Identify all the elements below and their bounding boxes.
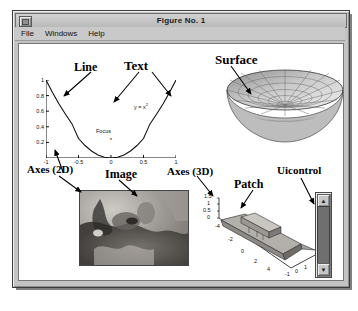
window-title: Figure No. 1 [16, 16, 346, 25]
menu-bar[interactable]: File Windows Help [15, 27, 345, 41]
focus-point-label: Focus [96, 128, 111, 134]
parabola-ytick-1: 1 [41, 77, 44, 83]
menu-item-help-label: Help [88, 29, 104, 38]
curve-equation-base: y = x [134, 104, 146, 110]
patch-ztick-0: 0 [207, 214, 210, 220]
parabola-ytick-06: 0.6 [36, 108, 44, 114]
callout-uicontrol: Uicontrol [277, 164, 321, 176]
parabola-plot-svg: * [46, 80, 176, 158]
desktop-background: Figure No. 1 File Windows Help [0, 0, 358, 311]
figure-canvas[interactable]: * 1 0.8 0.6 0.4 0.2 -1 -0.5 0 0.5 1 Focu… [18, 43, 344, 281]
figure-window[interactable]: Figure No. 1 File Windows Help [12, 10, 350, 288]
parabola-xtick-0: 0 [109, 159, 112, 165]
parabola-ytick-02: 0.2 [36, 139, 44, 145]
callout-image: Image [105, 167, 137, 182]
parabola-xtick-05: 0.5 [140, 159, 148, 165]
callout-line: Line [74, 60, 97, 75]
patch-xtick-neg4: -4 [215, 223, 220, 229]
patch-xtick-neg2: -2 [228, 236, 233, 242]
patch-xtick-0: 0 [241, 248, 244, 254]
patch-xtick-2: 2 [254, 258, 257, 264]
curve-equation-exponent: 2 [146, 102, 148, 107]
callout-axes-2d: Axes (2D) [27, 163, 73, 175]
callout-text: Text [124, 58, 148, 74]
image-content [80, 191, 188, 265]
callout-patch: Patch [234, 177, 263, 192]
slider-trough[interactable] [317, 206, 330, 264]
patch-ztick-05: 0.5 [203, 207, 211, 213]
patch-ytick-neg1: -1 [285, 271, 290, 277]
slider-down-arrow-button[interactable]: ▼ [317, 263, 330, 276]
callout-axes-3d: Axes (3D) [167, 165, 213, 177]
menu-item-help[interactable]: Help [88, 29, 104, 38]
uicontrol-slider[interactable]: ▲ ▼ [315, 192, 332, 278]
axes-3d-patch[interactable]: 1.5 1 0.5 0 -4 -2 0 2 4 -1 0 1 [205, 192, 323, 276]
axes-image[interactable]: 50 100 150 200 50 100 150 200 250 300 [79, 190, 189, 266]
parabola-ytick-08: 0.8 [36, 93, 44, 99]
patch-ztick-15: 1.5 [204, 193, 212, 199]
parabola-xtick-neg05: -0.5 [74, 159, 83, 165]
menu-item-windows[interactable]: Windows [45, 29, 77, 38]
menu-item-windows-label: Windows [45, 29, 77, 38]
patch-ytick-0: 0 [295, 268, 298, 274]
patch-xtick-4: 4 [267, 266, 270, 272]
curve-equation-label: y = x2 [134, 102, 148, 110]
menu-item-file[interactable]: File [21, 29, 34, 38]
callout-surface: Surface [215, 52, 258, 68]
parabola-ytick-04: 0.4 [36, 124, 44, 130]
title-bar[interactable]: Figure No. 1 [15, 13, 347, 28]
patch-ztick-1: 1 [207, 200, 210, 206]
menu-item-file-label: File [21, 29, 34, 38]
axes-2d-parabola[interactable]: * 1 0.8 0.6 0.4 0.2 -1 -0.5 0 0.5 1 Focu… [46, 80, 176, 158]
patch-ytick-1: 1 [304, 264, 307, 270]
svg-text:*: * [110, 137, 113, 143]
